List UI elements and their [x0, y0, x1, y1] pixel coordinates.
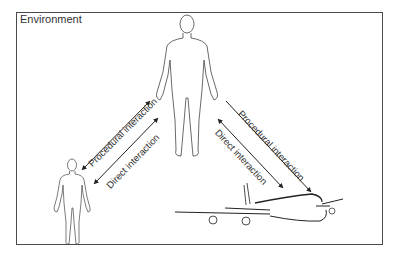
diagram-art: [0, 0, 399, 258]
airplane-icon: [175, 183, 343, 225]
large-human-icon: [156, 15, 217, 156]
small-human-icon: [54, 159, 90, 244]
